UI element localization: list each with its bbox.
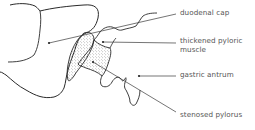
label-gastric-antrum: gastric antrum (180, 71, 234, 80)
leader-duodenal-cap (49, 14, 176, 43)
stomach-inner-fold (8, 11, 41, 62)
dot-gastric-antrum (138, 75, 140, 77)
dot-stenosed-pylorus (92, 61, 94, 63)
dot-duodenal-cap (48, 42, 50, 44)
label-stenosed-pylorus: stenosed pylorus (180, 111, 242, 120)
label-thickened-pyloric-muscle: thickened pyloric muscle (180, 37, 250, 54)
label-duodenal-cap: duodenal cap (180, 9, 229, 18)
dot-thickened-muscle (102, 41, 104, 43)
antrum-outline (101, 76, 141, 105)
leader-thickened-muscle (103, 42, 176, 43)
duodenal-cap-lower (110, 38, 116, 48)
duodenum-outline (94, 13, 157, 40)
